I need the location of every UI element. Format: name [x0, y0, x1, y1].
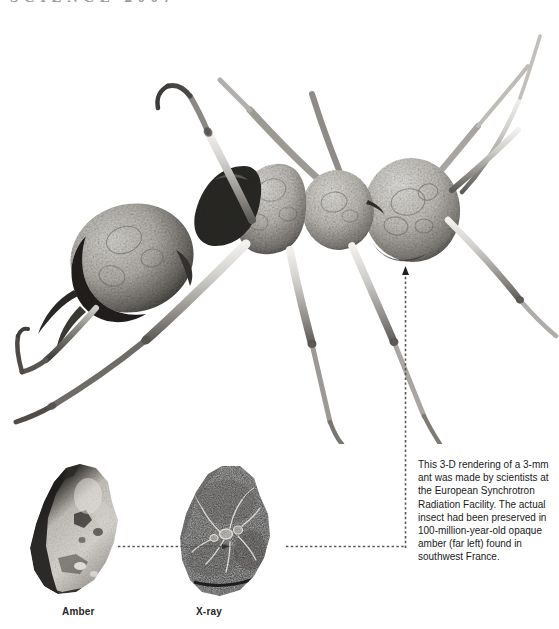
connector-vertical-to-ant — [400, 266, 411, 548]
connector-amber-to-xray — [118, 544, 230, 549]
connector-xray-to-vertical — [286, 544, 406, 549]
ant-body — [16, 36, 556, 444]
xray-specimen-photo — [168, 462, 290, 604]
masthead: SCIENCE 2007 — [0, 0, 559, 5]
amber-specimen-photo — [22, 462, 140, 602]
amber-specimen-label: Amber — [62, 606, 95, 617]
xray-specimen-label: X-ray — [196, 606, 222, 617]
figure-caption: This 3-D rendering of a 3-mm ant was mad… — [418, 458, 554, 564]
ant-3d-rendering — [0, 14, 559, 444]
masthead-title: SCIENCE 2007 — [0, 0, 559, 5]
